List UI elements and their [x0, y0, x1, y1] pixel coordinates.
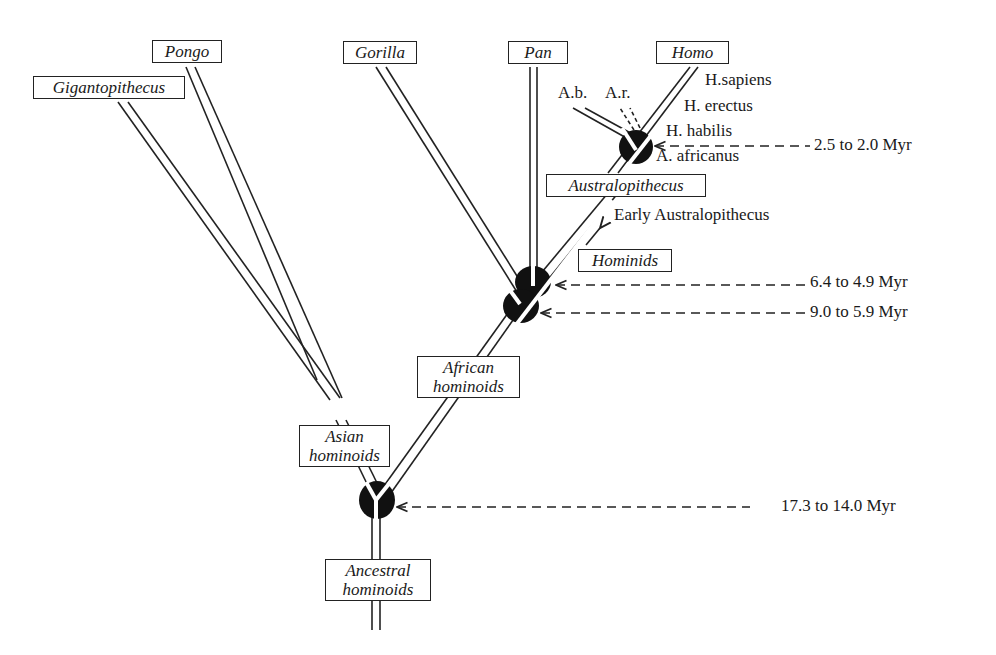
date-label-4: 17.3 to 14.0 Myr — [781, 496, 896, 515]
taxon-asian-hominoids: Asian hominoids — [299, 425, 390, 467]
date-label-1: 2.5 to 2.0 Myr — [814, 135, 912, 154]
taxon-homo: Homo — [656, 41, 729, 64]
taxon-pongo: Pongo — [152, 40, 222, 63]
date-label-3: 9.0 to 5.9 Myr — [810, 302, 908, 321]
taxon-pan: Pan — [508, 41, 568, 64]
label-h-habilis: H. habilis — [666, 121, 732, 140]
taxon-ancestral-hominoids: Ancestral hominoids — [325, 559, 431, 601]
label-early-australopithecus: Early Australopithecus — [614, 205, 769, 224]
label-h-erectus: H. erectus — [684, 96, 753, 115]
label-ab: A.b. — [558, 83, 587, 102]
taxon-african-hominoids: African hominoids — [417, 356, 520, 398]
ancestral-line-2: hominoids — [331, 580, 425, 599]
taxon-gigantopithecus: Gigantopithecus — [33, 76, 185, 99]
african-line-2: hominoids — [423, 377, 514, 396]
date-label-2: 6.4 to 4.9 Myr — [810, 272, 908, 291]
label-a-africanus: A. africanus — [656, 146, 739, 165]
taxon-gorilla: Gorilla — [343, 41, 417, 64]
label-ar: A.r. — [605, 83, 631, 102]
asian-line-2: hominoids — [305, 446, 384, 465]
label-h-sapiens: H.sapiens — [705, 70, 772, 89]
asian-line-1: Asian — [305, 427, 384, 446]
taxon-australopithecus: Australopithecus — [546, 174, 706, 197]
ancestral-line-1: Ancestral — [331, 561, 425, 580]
taxon-hominids: Hominids — [578, 249, 672, 272]
african-line-1: African — [423, 358, 514, 377]
